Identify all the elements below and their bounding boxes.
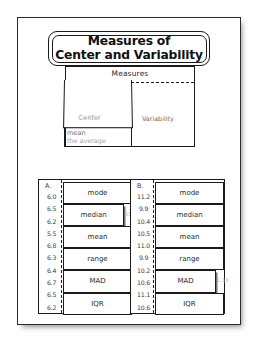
center-label: Center	[79, 114, 101, 122]
data-value: 10.5	[134, 228, 153, 240]
data-value: 6.8	[42, 240, 61, 252]
under-flap-line-2: the average	[67, 137, 129, 145]
data-value: 6.2	[42, 216, 61, 228]
flap-label: mean	[88, 233, 108, 241]
flap-label: MAD	[177, 277, 193, 285]
center-flap[interactable]: Center	[63, 80, 133, 128]
flap-mad[interactable]: MAD	[63, 270, 132, 292]
flap-median[interactable]: median	[155, 204, 224, 226]
data-value: 9.9	[134, 252, 153, 264]
flap-label: median	[80, 211, 106, 219]
flap-range[interactable]: range	[63, 248, 132, 270]
answer-column-a: A. 6.06.56.25.56.86.36.46.76.56.2 modeme…	[38, 179, 133, 314]
title-line-1: Measures of	[88, 35, 171, 48]
flap-median[interactable]: median	[63, 204, 124, 226]
flap-mode[interactable]: mode	[155, 182, 224, 204]
data-value: 6.5	[42, 289, 61, 301]
data-value: 6.0	[42, 191, 61, 203]
column-letter: B.	[137, 182, 143, 190]
flap-mode[interactable]: mode	[63, 182, 132, 204]
data-value: 6.3	[42, 252, 61, 264]
data-value-list-a: 6.06.56.25.56.86.36.46.76.56.2	[42, 191, 61, 314]
flap-label: MAD	[89, 277, 105, 285]
flap-mean[interactable]: mean	[63, 226, 132, 248]
data-value: 11.1	[134, 289, 153, 301]
flap-range[interactable]: range	[155, 248, 224, 270]
flap-label: range	[179, 255, 199, 263]
data-value: 6.7	[42, 277, 61, 289]
title-banner: Measures of Center and Variability	[48, 31, 210, 66]
data-value: 6.2	[42, 302, 61, 314]
title-banner-inner: Measures of Center and Variability	[52, 35, 207, 63]
data-value: 5.5	[42, 228, 61, 240]
title-line-2: Center and Variability	[55, 49, 202, 62]
flap-iqr[interactable]: IQR	[155, 293, 224, 315]
data-value: 6.5	[42, 203, 61, 215]
data-value: 10.6	[134, 277, 153, 289]
flap-label: IQR	[91, 300, 103, 308]
flap-label: mode	[88, 189, 108, 197]
variability-label: Variability	[142, 115, 174, 123]
flap-list-a: modemedian15meanrangeMADIQR	[62, 180, 132, 313]
flap-mean[interactable]: mean	[155, 226, 224, 248]
flap-label: mean	[180, 233, 200, 241]
paper-sheet: Measures of Center and Variability Measu…	[17, 17, 241, 325]
flap-label: median	[176, 211, 202, 219]
flap-iqr[interactable]: IQR	[63, 293, 132, 315]
worksheet-page: Measures of Center and Variability Measu…	[0, 0, 260, 352]
data-value: 9.9	[134, 203, 153, 215]
data-value: 11.2	[134, 191, 153, 203]
flap-ghost-answer: 1.18	[217, 277, 229, 283]
flap-list-b: modemedianmeanrangeMAD1.18IQR	[154, 180, 224, 313]
data-value-list-b: 11.29.910.410.511.09.910.210.611.110.6	[134, 191, 153, 314]
flap-label: IQR	[183, 300, 195, 308]
data-value: 10.4	[134, 216, 153, 228]
data-value: 11.0	[134, 240, 153, 252]
flap-label: mode	[180, 189, 200, 197]
flap-label: range	[87, 255, 107, 263]
data-value: 10.2	[134, 265, 153, 277]
measures-header-label: Measures	[66, 69, 194, 78]
flap-mad[interactable]: MAD	[155, 270, 216, 292]
column-letter: A.	[45, 182, 51, 190]
data-value: 10.6	[134, 302, 153, 314]
data-value: 6.4	[42, 265, 61, 277]
answer-column-b: B. 11.29.910.410.511.09.910.210.611.110.…	[130, 179, 225, 314]
under-flap-line-1: mean	[67, 129, 129, 137]
